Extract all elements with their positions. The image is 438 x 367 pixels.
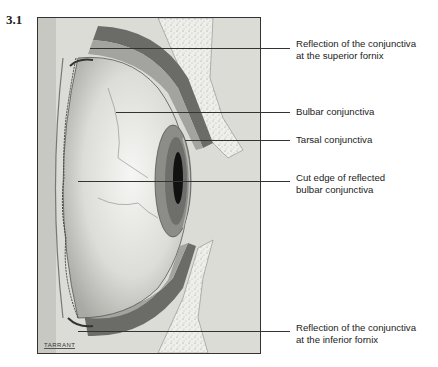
label-bulbar-conjunctiva: Bulbar conjunctiva [296,106,374,118]
label-line: at the superior fornix [296,50,416,62]
leader-line-tarsal [185,140,290,141]
eye-illustration-frame: TARRANT [37,17,261,354]
leader-line-cut-edge [78,181,290,182]
label-line: bulbar conjunctiva [296,184,385,196]
label-superior-fornix: Reflection of the conjunctiva at the sup… [296,38,416,62]
figure-number: 3.1 [6,12,22,28]
label-line: Bulbar conjunctiva [296,106,374,118]
label-line: Reflection of the conjunctiva [296,38,416,50]
label-tarsal-conjunctiva: Tarsal conjunctiva [296,134,372,146]
label-inferior-fornix: Reflection of the conjunctiva at the inf… [296,322,416,346]
label-cut-edge: Cut edge of reflected bulbar conjunctiva [296,172,385,196]
label-line: Reflection of the conjunctiva [296,322,416,334]
leader-line-bulbar [116,112,290,113]
label-line: at the inferior fornix [296,334,416,346]
label-line: Tarsal conjunctiva [296,134,372,146]
artist-signature: TARRANT [44,342,75,349]
eye-cross-section-illustration [38,18,260,353]
leader-line-superior-fornix [90,48,290,49]
label-line: Cut edge of reflected [296,172,385,184]
leader-line-inferior-fornix [78,331,290,332]
